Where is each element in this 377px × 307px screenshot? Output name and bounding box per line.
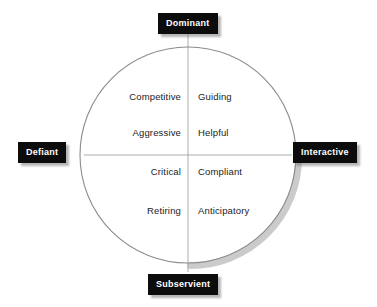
axis-label-subservient: Subservient bbox=[148, 274, 218, 295]
circumplex-diagram: Competitive Aggressive Guiding Helpful C… bbox=[0, 0, 377, 307]
quadrant-term-retiring: Retiring bbox=[147, 206, 181, 216]
axis-label-dominant: Dominant bbox=[158, 13, 218, 34]
axis-label-interactive: Interactive bbox=[293, 142, 357, 163]
axis-label-defiant: Defiant bbox=[18, 142, 66, 163]
quadrant-term-competitive: Competitive bbox=[129, 92, 181, 102]
quadrant-term-anticipatory: Anticipatory bbox=[198, 206, 249, 216]
quadrant-term-aggressive: Aggressive bbox=[133, 128, 182, 138]
quadrant-term-helpful: Helpful bbox=[198, 128, 229, 138]
quadrant-term-critical: Critical bbox=[151, 167, 181, 177]
quadrant-term-guiding: Guiding bbox=[198, 92, 232, 102]
quadrant-term-compliant: Compliant bbox=[198, 167, 242, 177]
